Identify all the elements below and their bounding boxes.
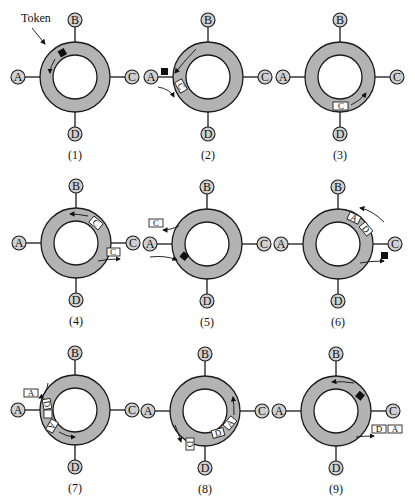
frame-d-body <box>44 410 52 418</box>
node-a: A <box>15 236 24 250</box>
panel-4: B D A C C C (4) <box>12 179 140 328</box>
panel-caption: (7) <box>68 481 82 495</box>
node-a: A <box>14 70 23 84</box>
node-c: C <box>128 403 136 417</box>
frame-c-removed: C <box>149 218 163 228</box>
frame-d-removed: D <box>372 424 386 434</box>
token-insert-arrow-icon <box>150 256 177 260</box>
panel-3: B D A C C (3) <box>276 13 404 162</box>
panel-caption: (2) <box>201 148 215 162</box>
node-d: D <box>336 127 345 141</box>
panel-caption: (1) <box>68 148 82 162</box>
frame-c: C <box>107 247 120 257</box>
panel-6: B D A C A D (6) <box>274 180 402 329</box>
frame-a-removed: A <box>388 424 402 434</box>
token-icon <box>161 68 168 75</box>
frame-d-copy: D <box>185 438 195 450</box>
panel-9: B D A C D A (9) <box>272 347 402 496</box>
node-d: D <box>71 460 80 474</box>
node-c: C <box>389 404 397 418</box>
pointer-arrow-icon <box>32 28 45 44</box>
panel-caption: (3) <box>333 148 347 162</box>
token-icon <box>381 252 388 259</box>
node-c: C <box>391 237 399 251</box>
panel-1: B D A C Token (1) <box>11 11 139 162</box>
node-c: C <box>129 236 137 250</box>
node-d: D <box>203 294 212 308</box>
frame-insert-arrow-icon <box>158 87 174 97</box>
token-label: Token <box>21 11 51 25</box>
node-c: C <box>393 70 401 84</box>
node-b: B <box>334 180 342 194</box>
node-a: A <box>14 403 23 417</box>
node-a: A <box>279 70 288 84</box>
panel-caption: (6) <box>331 315 345 329</box>
node-a: A <box>275 404 284 418</box>
node-b: B <box>336 13 344 27</box>
node-b: B <box>204 13 212 27</box>
node-d: D <box>72 293 81 307</box>
svg-text:C: C <box>338 101 344 111</box>
node-b: B <box>201 347 209 361</box>
node-c: C <box>260 237 268 251</box>
panel-2: B D A C C (2) <box>144 13 272 162</box>
node-d: D <box>334 294 343 308</box>
panel-caption: (4) <box>69 314 83 328</box>
node-b: B <box>332 347 340 361</box>
node-d: D <box>204 127 213 141</box>
svg-text:A: A <box>392 424 399 434</box>
node-a: A <box>144 404 153 418</box>
node-c: C <box>128 70 136 84</box>
panel-7: B D A C A D A (7) <box>11 346 139 495</box>
panel-8: B D A C D A D (8) <box>141 347 269 496</box>
node-d: D <box>71 127 80 141</box>
node-a: A <box>277 237 286 251</box>
node-c: C <box>261 70 269 84</box>
svg-text:D: D <box>185 441 195 448</box>
frame-c: C <box>333 101 348 111</box>
panel-5: B D A C C (5) <box>143 180 271 329</box>
node-d: D <box>332 461 341 475</box>
panel-caption: (5) <box>200 315 214 329</box>
panel-caption: (8) <box>198 482 212 496</box>
node-d: D <box>201 461 210 475</box>
token-ring-figure: B D A C Token (1) B D A C C (2) B D A C … <box>0 0 415 504</box>
svg-text:C: C <box>110 247 116 257</box>
node-b: B <box>203 180 211 194</box>
panel-caption: (9) <box>329 482 343 496</box>
svg-text:D: D <box>376 424 383 434</box>
node-b: B <box>71 346 79 360</box>
node-a: A <box>146 237 155 251</box>
node-b: B <box>72 179 80 193</box>
node-a: A <box>147 70 156 84</box>
frame-a-copy: A <box>24 388 38 398</box>
node-c: C <box>258 404 266 418</box>
svg-text:C: C <box>153 218 159 228</box>
node-b: B <box>71 13 79 27</box>
svg-text:A: A <box>28 388 35 398</box>
